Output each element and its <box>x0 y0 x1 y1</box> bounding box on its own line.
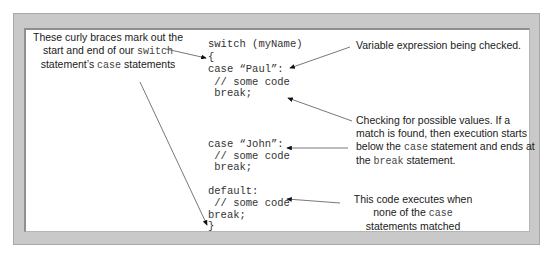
annotation-arrows <box>0 0 554 266</box>
arrow-open-brace <box>166 49 206 58</box>
arrow-default <box>287 199 340 203</box>
arrow-case-paul <box>288 98 352 121</box>
arrow-variable <box>290 47 350 68</box>
arrow-close-brace <box>140 82 207 225</box>
